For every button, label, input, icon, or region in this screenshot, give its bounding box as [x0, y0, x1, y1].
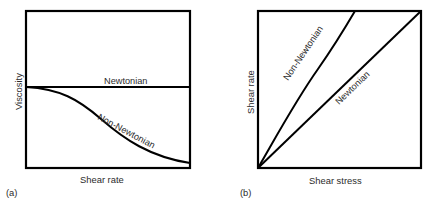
panel-b-non-newtonian-label: Non-Newtonian — [281, 24, 325, 82]
rheology-figure: Newtonian Non-Newtonian Viscosity Shear … — [0, 0, 432, 204]
panel-a: Newtonian Non-Newtonian Viscosity Shear … — [6, 11, 190, 198]
panel-a-x-axis-label: Shear rate — [80, 174, 124, 185]
panel-b-newtonian-curve — [258, 11, 421, 168]
panel-b-y-axis-label: Shear rate — [245, 70, 256, 114]
panel-a-newtonian-label: Newtonian — [104, 76, 147, 86]
panel-b-newtonian-label: Newtonian — [333, 69, 371, 106]
panel-a-non-newtonian-label: Non-Newtonian — [96, 112, 157, 151]
figure-svg: Newtonian Non-Newtonian Viscosity Shear … — [0, 0, 432, 204]
panel-b-x-axis-label: Shear stress — [309, 175, 362, 186]
panel-a-y-axis-label: Viscosity — [13, 73, 24, 110]
panel-b-label: (b) — [240, 187, 251, 198]
panel-a-label: (a) — [6, 187, 17, 198]
panel-b: Non-Newtonian Newtonian Shear rate Shear… — [240, 11, 421, 198]
